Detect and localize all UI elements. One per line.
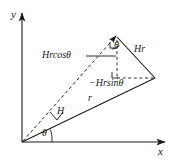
- h-label: H: [57, 106, 64, 116]
- theta-arc-origin: [51, 130, 53, 143]
- vector-decomposition-figure: y x Hrcosθ −Hrsinθ Hr r H θ θ: [0, 0, 176, 164]
- theta-origin-label: θ: [42, 128, 47, 138]
- r-label: r: [88, 93, 92, 103]
- minus-hrsin-theta-label: −Hrsinθ: [89, 78, 123, 88]
- figure-canvas: [0, 0, 176, 164]
- y-axis-label: y: [11, 9, 16, 20]
- theta-tip-label: θ: [114, 40, 119, 50]
- h-tick-base: [50, 112, 57, 120]
- hrcos-theta-label: Hrcosθ: [42, 50, 71, 60]
- hr-vector-label: Hr: [134, 44, 145, 54]
- x-axis-label: x: [158, 146, 163, 157]
